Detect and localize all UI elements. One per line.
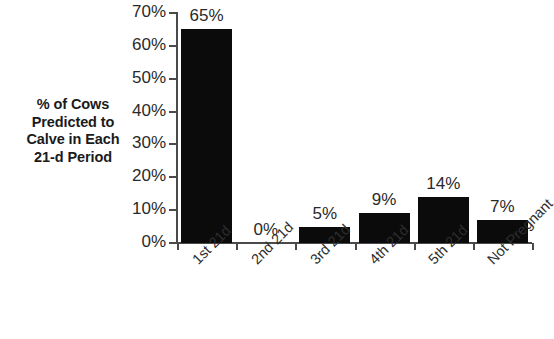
x-axis-tick — [236, 243, 238, 250]
bar-value-label: 14% — [408, 174, 478, 194]
bar — [181, 29, 232, 243]
y-axis-tick — [169, 45, 177, 47]
bar-chart: % of Cows Predicted to Calve in Each 21-… — [0, 0, 554, 339]
x-axis-tick — [177, 243, 179, 250]
y-axis-tick-label: 20% — [120, 166, 166, 186]
y-axis-tick-label: 30% — [120, 133, 166, 153]
y-axis-tick — [169, 111, 177, 113]
y-axis-tick — [169, 209, 177, 211]
x-axis-tick — [532, 243, 534, 250]
y-axis-tick-label: 60% — [120, 35, 166, 55]
y-axis-tick — [169, 78, 177, 80]
y-axis-title-line-2: Predicted to — [8, 114, 138, 132]
x-axis-tick — [295, 243, 297, 250]
y-axis-title-line-1: % of Cows — [8, 96, 138, 114]
x-axis-tick — [414, 243, 416, 250]
y-axis-tick-label: 40% — [120, 101, 166, 121]
y-axis-tick — [169, 176, 177, 178]
y-axis-title-line-3: Calve in Each — [8, 131, 138, 149]
y-axis-tick-label: 0% — [120, 232, 166, 252]
y-axis-tick — [169, 242, 177, 244]
y-axis-tick — [169, 143, 177, 145]
x-axis-tick — [473, 243, 475, 250]
y-axis-tick-label: 50% — [120, 68, 166, 88]
y-axis-title: % of Cows Predicted to Calve in Each 21-… — [8, 96, 138, 166]
y-axis-tick-label: 10% — [120, 199, 166, 219]
x-axis-tick — [355, 243, 357, 250]
bar-value-label: 65% — [172, 6, 242, 26]
y-axis-title-line-4: 21-d Period — [8, 149, 138, 167]
y-axis-tick-label: 70% — [120, 2, 166, 22]
